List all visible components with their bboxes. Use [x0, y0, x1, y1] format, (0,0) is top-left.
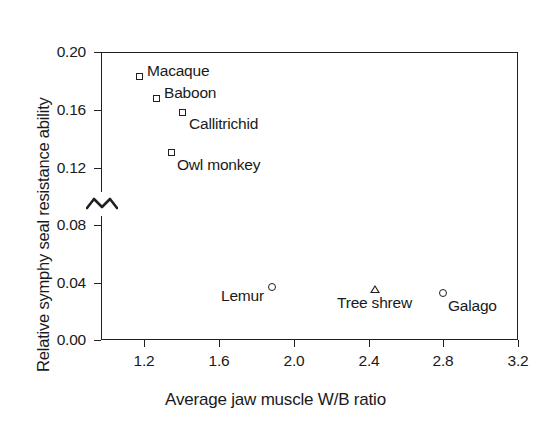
data-point-baboon[interactable]	[153, 95, 160, 102]
y-tick-label-016: 0.16	[38, 101, 86, 119]
x-tick-12	[144, 340, 145, 347]
y-axis-break-icon	[86, 192, 118, 216]
x-tick-28	[443, 340, 444, 347]
x-tick-20	[294, 340, 295, 347]
x-tick-label-32: 3.2	[488, 352, 548, 370]
data-label-macaque: Macaque	[147, 62, 209, 80]
x-tick-label-28: 2.8	[413, 352, 473, 370]
x-tick-label-16: 1.6	[189, 352, 249, 370]
data-point-macaque[interactable]	[136, 73, 143, 80]
y-tick-016	[94, 110, 101, 111]
y-tick-label-008: 0.08	[38, 216, 86, 234]
y-tick-000	[94, 340, 101, 341]
data-label-lemur: Lemur	[221, 287, 264, 305]
x-tick-32	[518, 340, 519, 347]
x-tick-label-20: 2.0	[264, 352, 324, 370]
y-tick-004	[94, 283, 101, 284]
data-point-callitrichid[interactable]	[179, 109, 186, 116]
data-label-galago: Galago	[448, 297, 497, 315]
x-axis-title: Average jaw muscle W/B ratio	[0, 390, 551, 410]
y-tick-008	[94, 225, 101, 226]
data-point-galago[interactable]	[439, 289, 447, 297]
x-tick-16	[219, 340, 220, 347]
y-tick-label-020: 0.20	[38, 43, 86, 61]
data-point-owl-monkey[interactable]	[168, 149, 175, 156]
data-label-tree-shrew: Tree shrew	[337, 294, 412, 312]
y-tick-020	[94, 52, 101, 53]
data-label-owl-monkey: Owl monkey	[177, 156, 260, 174]
scatter-plot-figure: Relative symphy seal resistance ability …	[0, 0, 551, 439]
y-tick-label-000: 0.00	[38, 331, 86, 349]
y-tick-012	[94, 168, 101, 169]
y-tick-label-012: 0.12	[38, 159, 86, 177]
data-label-baboon: Baboon	[164, 84, 216, 102]
x-tick-label-12: 1.2	[114, 352, 174, 370]
data-point-tree-shrew[interactable]	[370, 285, 380, 293]
x-tick-24	[369, 340, 370, 347]
y-tick-label-004: 0.04	[38, 274, 86, 292]
data-label-callitrichid: Callitrichid	[189, 115, 258, 133]
data-point-lemur[interactable]	[268, 283, 276, 291]
x-tick-label-24: 2.4	[339, 352, 399, 370]
y-axis-title: Relative symphy seal resistance ability	[34, 22, 53, 372]
